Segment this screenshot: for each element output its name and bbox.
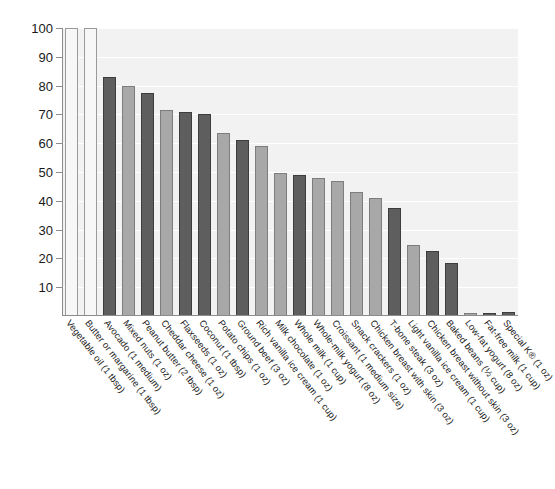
bar: [65, 28, 78, 316]
bar: [350, 192, 363, 316]
bar: [331, 181, 344, 316]
bar: [217, 133, 230, 316]
bar: [255, 146, 268, 316]
bar: [312, 178, 325, 316]
y-axis-tick-label: 70: [39, 107, 53, 122]
bar: [445, 263, 458, 316]
bar: [369, 198, 382, 316]
bar-series: [62, 28, 518, 316]
y-axis-tick-label: 50: [39, 165, 53, 180]
y-axis-tick-label: 20: [39, 251, 53, 266]
bar: [198, 114, 211, 316]
bar: [293, 175, 306, 316]
y-axis-tick-label: 90: [39, 49, 53, 64]
bar: [502, 312, 515, 316]
bar: [122, 86, 135, 316]
bar: [483, 313, 496, 316]
x-axis-labels: Vegetable oil (1 tbsp)Butter or margarin…: [62, 318, 518, 488]
y-axis-tick-label: 80: [39, 78, 53, 93]
bar: [160, 110, 173, 316]
y-axis-tick-label: 60: [39, 136, 53, 151]
plot-area: 100908070605040302010: [62, 28, 518, 316]
bar: [84, 28, 97, 316]
bar: [141, 93, 154, 316]
bar: [236, 140, 249, 316]
bar: [103, 77, 116, 316]
bar: [388, 208, 401, 316]
bar: [407, 245, 420, 316]
bar: [274, 173, 287, 316]
bar: [179, 112, 192, 316]
y-axis-tick-label: 10: [39, 280, 53, 295]
bar: [426, 251, 439, 316]
bar: [464, 313, 477, 316]
y-axis-tick-label: 30: [39, 222, 53, 237]
y-axis-tick-label: 100: [31, 21, 53, 36]
y-axis-tick-label: 40: [39, 193, 53, 208]
